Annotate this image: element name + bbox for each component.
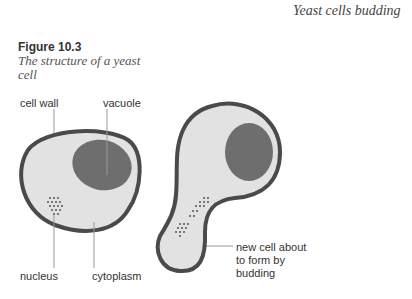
label-cytoplasm: cytoplasm	[92, 270, 142, 282]
yeast-cell-left	[21, 131, 140, 231]
label-bud-line1: new cell about	[236, 241, 306, 253]
vacuole-budding	[225, 123, 273, 181]
label-bud-line3: budding	[236, 267, 275, 279]
label-cell-wall: cell wall	[20, 97, 59, 109]
label-nucleus: nucleus	[20, 270, 58, 282]
yeast-cell-diagram	[0, 0, 412, 299]
label-bud-line2: to form by	[236, 254, 285, 266]
label-vacuole: vacuole	[103, 97, 141, 109]
